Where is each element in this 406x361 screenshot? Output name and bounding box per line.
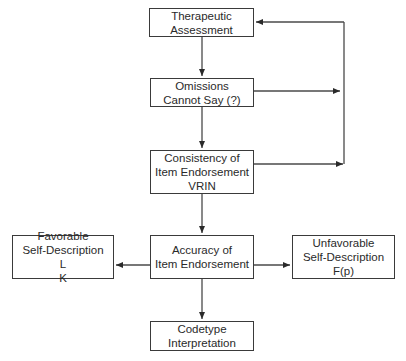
node-accuracy: Accuracy of Item Endorsement (150, 235, 254, 279)
node-label: Assessment (170, 23, 233, 37)
node-label: Therapeutic (171, 9, 232, 23)
node-omissions: Omissions Cannot Say (?) (150, 78, 254, 107)
node-label: Self-Description (22, 243, 103, 257)
node-consistency: Consistency of Item Endorsement VRIN (150, 150, 254, 194)
node-codetype: Codetype Interpretation (150, 321, 254, 351)
node-label: Self-Description (303, 250, 384, 264)
node-therapeutic-assessment: Therapeutic Assessment (149, 8, 254, 37)
node-label: VRIN (188, 179, 215, 193)
scale-labels: L K (28, 257, 98, 285)
flowchart: Therapeutic Assessment Omissions Cannot … (0, 0, 406, 361)
node-label: Accuracy of (172, 243, 232, 257)
node-label: Interpretation (168, 336, 236, 350)
node-label: Cannot Say (?) (163, 93, 240, 107)
node-label: Item Endorsement (155, 257, 249, 271)
node-label: F(p) (333, 264, 354, 278)
node-label: Consistency of (164, 151, 239, 165)
node-label: Favorable (37, 229, 88, 243)
node-label: Item Endorsement (155, 165, 249, 179)
node-label: Codetype (177, 322, 226, 336)
node-favorable: Favorable Self-Description L K (12, 235, 114, 279)
node-unfavorable: Unfavorable Self-Description F(p) (292, 235, 395, 279)
scale-l: L (28, 257, 98, 271)
node-label: Omissions (175, 79, 229, 93)
scale-k: K (28, 271, 98, 285)
node-label: Unfavorable (312, 236, 374, 250)
